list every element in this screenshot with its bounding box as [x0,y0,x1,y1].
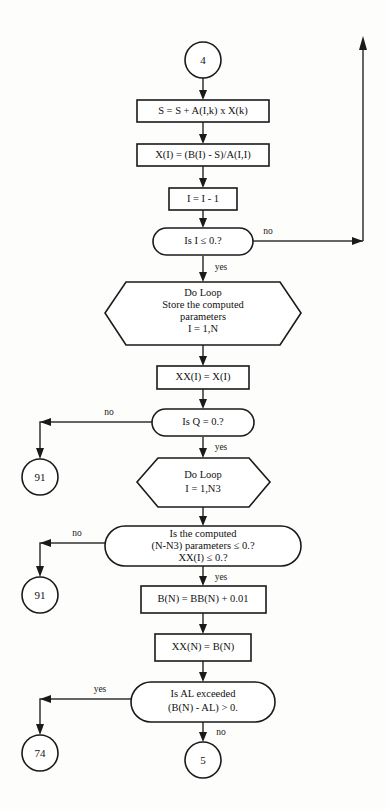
node-decision-is-q[interactable]: Is Q = 0.? [152,409,254,436]
connector-dec-computed-no [40,543,105,570]
loop-store-line-3: parameters [180,311,226,322]
terminator-74-label: 74 [35,747,47,759]
arrowhead-dec-computed-yes [199,576,207,586]
decision-computed-line-3: XX(I) ≤ 0.? [178,552,228,564]
process-decrement-i-label: I = I - 1 [187,193,219,204]
arrowhead-dec-i-yes [199,272,207,282]
arrowhead-dec-computed-no-down [36,566,44,577]
node-terminator-74[interactable]: 74 [22,735,58,771]
arrowhead-feedback-top [359,36,367,50]
decision-is-i-label: Is I ≤ 0.? [184,235,222,246]
node-loop-n3[interactable]: Do Loop I = 1,N3 [137,458,270,507]
arrowhead-loop-n3 [199,516,207,526]
node-process-xxn[interactable]: XX(N) = B(N) [155,634,251,661]
edge-label-is-q-yes: yes [215,442,228,452]
flowchart-canvas: 4 S = S + A(I,k) x X(k) X(I) = (B(I) - S… [0,0,388,809]
arrowhead-dec-computed-no-left [40,539,51,547]
node-decision-al[interactable]: Is AL exceeded (B(N) - AL) > 0. [131,682,275,722]
edge-label-al-yes: yes [94,684,107,694]
edge-label-computed-yes: yes [215,572,228,582]
terminator-4-label: 4 [200,54,206,66]
arrowhead-proc-dec-i-to-dec-i [199,218,207,228]
edge-label-computed-no: no [72,528,82,538]
decision-al-line-2: (B(N) - AL) > 0. [168,702,238,714]
process-xi-label: X(I) = (B(I) - S)/A(I,I) [155,149,251,161]
arrowhead-dec-al-no [199,732,207,742]
decision-al-line-1: Is AL exceeded [171,688,237,699]
loop-store-line-1: Do Loop [184,287,222,298]
connector-dec-q-no [40,422,152,452]
arrowhead-loop-store [199,356,207,366]
arrowhead-dec-q-no-down [36,448,44,459]
loop-store-line-2: Store the computed [162,299,244,310]
decision-computed-line-2: (N-N3) parameters ≤ 0.? [151,540,254,552]
edge-label-is-q-no: no [104,407,114,417]
arrowhead-proc-xxn [199,672,207,682]
arrowhead-dec-al-yes-left [40,695,51,703]
loop-n3-line-2: I = 1,N3 [185,483,220,494]
arrowhead-dec-q-no-left [40,418,51,426]
arrowhead-dec-al-yes-down [36,724,44,735]
node-process-xxi[interactable]: XX(I) = X(I) [157,366,249,389]
flowchart-svg: 4 S = S + A(I,k) x X(k) X(I) = (B(I) - S… [0,0,388,809]
arrowhead-proc-bn [199,624,207,634]
node-decision-computed[interactable]: Is the computed (N-N3) parameters ≤ 0.? … [105,526,301,566]
process-s-label: S = S + A(I,k) x X(k) [158,105,248,117]
decision-is-q-label: Is Q = 0.? [182,416,224,427]
process-bn-label: B(N) = BB(N) + 0.01 [158,593,249,605]
loop-n3-line-1: Do Loop [184,469,222,480]
node-terminator-4[interactable]: 4 [185,42,221,78]
arrowhead-dec-i-no-right [352,237,363,245]
edge-label-al-no: no [216,727,226,737]
arrowhead-proc-xi-to-proc-dec-i [199,178,207,188]
node-terminator-91-a[interactable]: 91 [22,459,58,495]
terminator-91-b-label: 91 [35,589,46,601]
node-terminator-5[interactable]: 5 [185,742,221,778]
arrowhead-proc-s-to-proc-xi [199,134,207,144]
decision-computed-line-1: Is the computed [169,528,237,539]
terminator-91-a-label: 91 [35,471,46,483]
node-loop-store[interactable]: Do Loop Store the computed parameters I … [105,282,301,345]
node-process-decrement-i[interactable]: I = I - 1 [169,188,237,210]
node-decision-is-i[interactable]: Is I ≤ 0.? [153,228,253,255]
process-xxi-label: XX(I) = X(I) [176,371,231,383]
arrowhead-dec-q-yes [199,448,207,458]
edge-label-is-i-yes: yes [215,262,228,272]
edge-label-is-i-no: no [263,226,273,236]
loop-store-line-4: I = 1,N [188,323,219,334]
node-terminator-91-b[interactable]: 91 [22,577,58,613]
terminator-5-label: 5 [200,754,206,766]
node-process-s[interactable]: S = S + A(I,k) x X(k) [137,100,269,122]
node-process-bn[interactable]: B(N) = BB(N) + 0.01 [141,586,266,613]
process-xxn-label: XX(N) = B(N) [172,641,235,653]
arrowhead-proc-xxi [199,399,207,409]
arrowhead-term4-to-proc-s [199,90,207,100]
node-process-xi[interactable]: X(I) = (B(I) - S)/A(I,I) [137,144,269,166]
